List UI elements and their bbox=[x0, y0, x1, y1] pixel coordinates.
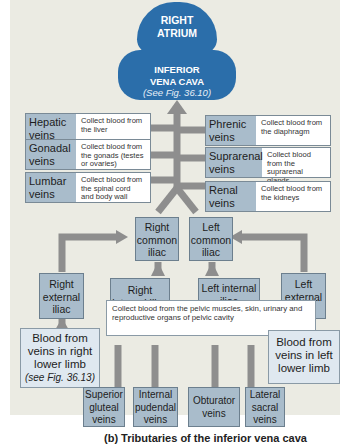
ivc-line1: INFERIOR bbox=[118, 64, 236, 76]
lateral-sacral-veins-box: Lateral sacral veins bbox=[245, 387, 285, 427]
left-internal-iliac-box: Left internal iliac bbox=[198, 278, 260, 302]
internal-pudendal-veins-box: Internal pudendal veins bbox=[133, 387, 178, 427]
phrenic-veins-box: Phrenic veins Collect blood from the dia… bbox=[205, 115, 331, 146]
left-lower-limb-box: Blood from veins in left lower limb bbox=[268, 330, 340, 384]
left-common-iliac-box: Left common iliac bbox=[189, 217, 233, 261]
right-common-iliac-box: Right common iliac bbox=[135, 217, 179, 261]
renal-veins-box: Renal veins Collect blood from the kidne… bbox=[205, 181, 331, 212]
tributary-name: Lumbar veins bbox=[26, 173, 76, 202]
right-limb-reference: (see Fig. 36.13) bbox=[25, 372, 95, 383]
ivc-reference: (See Fig. 36.10) bbox=[118, 87, 236, 99]
inferior-vena-cava-node: INFERIOR VENA CAVA (See Fig. 36.10) bbox=[118, 50, 236, 100]
atrium-line2: ATRIUM bbox=[137, 27, 217, 40]
lumbar-veins-box: Lumbar veins Collect blood from the spin… bbox=[25, 172, 151, 203]
tributary-name: Gonadal veins bbox=[26, 140, 76, 169]
right-external-iliac-box: Right external iliac bbox=[39, 273, 84, 319]
gonadal-veins-box: Gonadal veins Collect blood from the gon… bbox=[25, 139, 151, 170]
tributary-desc: Collect blood from the spinal cord and b… bbox=[76, 173, 150, 202]
tributary-name: Renal veins bbox=[206, 182, 256, 211]
tributary-desc: Collect blood from the gonads (testes or… bbox=[76, 140, 150, 169]
right-lower-limb-box: Blood from veins in right lower limb (se… bbox=[20, 328, 100, 388]
right-limb-text: Blood from veins in right lower limb bbox=[21, 332, 99, 371]
suprarenal-veins-box: Suprarenal veins Collect blood from the … bbox=[205, 147, 331, 178]
tributary-desc: Collect blood from the suprarenal glands bbox=[262, 148, 330, 177]
tributary-name: Suprarenal veins bbox=[206, 148, 262, 177]
tributary-desc: Collect blood from the kidneys bbox=[256, 182, 330, 211]
tributary-desc: Collect blood from the diaphragm bbox=[256, 116, 330, 145]
tributary-name: Phrenic veins bbox=[206, 116, 256, 145]
obturator-veins-box: Obturator veins bbox=[188, 387, 240, 427]
atrium-line1: RIGHT bbox=[137, 14, 217, 27]
figure-caption: (b) Tributaries of the inferior vena cav… bbox=[104, 432, 307, 444]
ivc-line2: VENA CAVA bbox=[118, 76, 236, 88]
superior-gluteal-veins-box: Superior gluteal veins bbox=[83, 387, 125, 427]
